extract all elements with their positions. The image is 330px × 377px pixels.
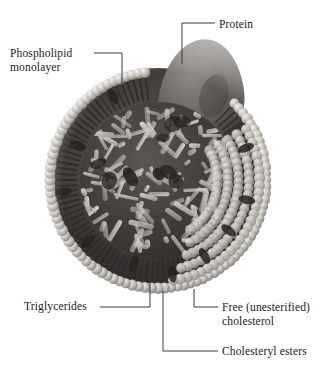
label-protein: Protein — [219, 18, 253, 32]
label-free-unesterified-cholesterol: Free (unesterified) cholesterol — [222, 301, 310, 328]
label-cholesteryl-esters: Cholesteryl esters — [222, 345, 307, 359]
lipoprotein-figure: Phospholipid monolayer Protein Triglycer… — [0, 0, 330, 377]
label-phospholipid-monolayer: Phospholipid monolayer — [10, 47, 73, 74]
label-triglycerides: Triglycerides — [24, 300, 87, 314]
